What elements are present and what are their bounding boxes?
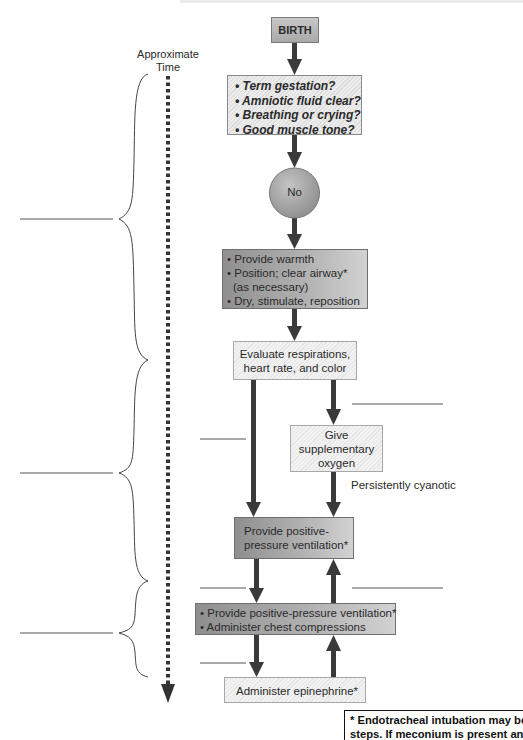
- birth-label: BIRTH: [278, 23, 312, 37]
- epinephrine-node: Administer epinephrine*: [224, 677, 366, 703]
- ppv-line2: pressure ventilation*: [244, 538, 353, 552]
- step-dry-stimulate: • Dry, stimulate, reposition: [227, 294, 367, 308]
- no-label: No: [270, 186, 319, 198]
- persistently-cyanotic-label: Persistently cyanotic: [351, 479, 456, 491]
- intubation-footnote: * Endotracheal intubation may be conside…: [344, 710, 523, 740]
- question-breathing: • Breathing or crying?: [235, 108, 361, 123]
- supplementary-oxygen-node: Give supplementary oxygen: [290, 425, 383, 472]
- footnote-line2: steps. If meconium is present and infant…: [350, 727, 523, 740]
- question-muscle-tone: • Good muscle tone?: [235, 123, 361, 138]
- evaluate-line2: heart rate, and color: [234, 361, 356, 375]
- bracket-2: [119, 360, 148, 581]
- timeline-label-line1: Approximate: [128, 48, 208, 61]
- evaluate-node: Evaluate respirations, heart rate, and c…: [233, 341, 357, 380]
- initial-steps-node: • Provide warmth • Position; clear airwa…: [222, 249, 368, 309]
- chest-compressions-item: • Administer chest compressions: [200, 620, 395, 634]
- timeline-label-line2: Time: [128, 61, 208, 74]
- assessment-questions-node: • Term gestation? • Amniotic fluid clear…: [227, 75, 362, 135]
- step-provide-warmth: • Provide warmth: [227, 252, 367, 266]
- question-amniotic-fluid: • Amniotic fluid clear?: [235, 94, 361, 109]
- footnote-line1: * Endotracheal intubation may be conside…: [350, 713, 523, 727]
- time-brackets: [119, 74, 148, 677]
- bracket-1: [119, 74, 148, 360]
- ppv-line1: Provide positive-: [244, 524, 353, 538]
- step-clear-airway: • Position; clear airway*: [227, 266, 367, 280]
- timeline-arrowhead-icon: [161, 684, 175, 703]
- bracket-3: [119, 581, 148, 677]
- oxygen-line3: oxygen: [291, 456, 382, 470]
- ppv-node: Provide positive- pressure ventilation*: [234, 517, 354, 559]
- oxygen-line1: Give: [291, 428, 382, 442]
- step-as-necessary: (as necessary): [227, 280, 367, 294]
- timeline-label: Approximate Time: [128, 48, 208, 74]
- question-term-gestation: • Term gestation?: [235, 79, 361, 94]
- epinephrine-label: Administer epinephrine*: [236, 685, 358, 697]
- ppv-compressions-node: • Provide positive-pressure ventilation*…: [195, 603, 396, 635]
- timeline-dotted-line: [161, 76, 175, 703]
- ppv-item: • Provide positive-pressure ventilation*: [200, 606, 395, 620]
- evaluate-line1: Evaluate respirations,: [234, 347, 356, 361]
- oxygen-line2: supplementary: [291, 442, 382, 456]
- birth-node: BIRTH: [271, 17, 319, 43]
